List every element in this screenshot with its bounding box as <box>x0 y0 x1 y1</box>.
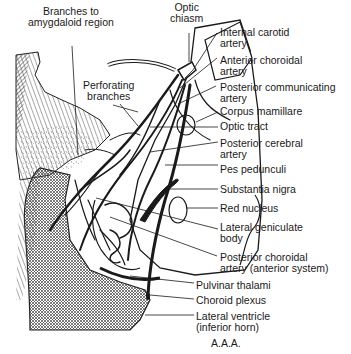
temporal-lobe-region <box>16 52 110 180</box>
label-pes-pedunculi: Pes pedunculi <box>220 164 286 175</box>
label-anterior-choroidal: Anterior choroidal artery <box>220 55 302 77</box>
label-perforating-branches: Perforating branches <box>83 80 134 102</box>
label-red-nucleus: Red nucleus <box>220 203 278 214</box>
label-posterior-communicating: Posterior communicating artery <box>220 82 336 104</box>
label-lateral-geniculate: Lateral geniculate body <box>220 222 303 244</box>
label-branches-amygdaloid: Branches to amygdaloid region <box>28 6 114 28</box>
label-internal-carotid: Internal carotid artery <box>220 27 289 49</box>
label-substantia-nigra: Substantia nigra <box>220 184 296 195</box>
label-optic-tract: Optic tract <box>220 121 268 132</box>
label-choroid-plexus: Choroid plexus <box>196 295 266 306</box>
label-posterior-cerebral: Posterior cerebral artery <box>220 138 303 160</box>
label-lateral-ventricle: Lateral ventricle (inferior horn) <box>196 311 270 333</box>
label-posterior-choroidal: Posterior choroidal artery (anterior sys… <box>220 252 329 274</box>
anatomical-diagram: Branches to amygdaloid region Optic chia… <box>0 0 351 354</box>
label-optic-chiasm: Optic chiasm <box>170 2 203 24</box>
credit-initials: A.A.A. <box>211 338 241 349</box>
label-pulvinar-thalami: Pulvinar thalami <box>196 280 271 291</box>
label-corpus-mamillare: Corpus mamillare <box>220 106 302 117</box>
